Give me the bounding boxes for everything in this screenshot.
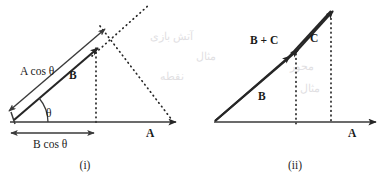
bleed-line-3: نقطه bbox=[160, 70, 184, 82]
bleed-line-2: مثال bbox=[196, 50, 216, 62]
label-vector-c: C bbox=[310, 32, 318, 44]
page-background bbox=[0, 0, 386, 179]
label-a-cos-theta: A cos θ bbox=[20, 65, 55, 77]
label-vector-b: B bbox=[69, 69, 77, 81]
label-vector-a-ii: A bbox=[348, 127, 357, 139]
label-b-cos-theta: B cos θ bbox=[33, 138, 68, 150]
bleed-line-4: محور bbox=[289, 60, 314, 73]
vector-diagram-figure: آتش بازی مثال نقطه محور مثال bbox=[0, 0, 386, 179]
label-angle-theta: θ bbox=[46, 107, 52, 119]
label-vector-b-ii: B bbox=[258, 90, 266, 102]
caption-panel-i: (i) bbox=[80, 159, 91, 172]
label-vector-b-plus-c: B + C bbox=[250, 34, 278, 46]
figure-canvas: آتش بازی مثال نقطه محور مثال bbox=[0, 0, 386, 179]
bleed-line-1: آتش بازی bbox=[150, 30, 194, 43]
label-vector-a: A bbox=[146, 127, 155, 139]
caption-panel-ii: (ii) bbox=[288, 159, 302, 172]
bleed-line-5: مثال bbox=[300, 82, 320, 94]
